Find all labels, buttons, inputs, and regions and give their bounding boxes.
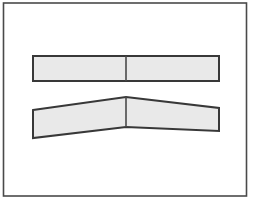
figure-svg xyxy=(0,0,258,204)
figure-container xyxy=(0,0,258,204)
